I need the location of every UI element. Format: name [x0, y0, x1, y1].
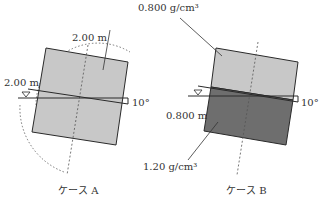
pointer-line-bottom — [188, 122, 218, 160]
case-a-height-label: 2.00 m — [4, 78, 39, 88]
diagram-canvas — [0, 0, 320, 205]
top-density-label: 0.800 g/cm³ — [138, 3, 199, 13]
case-b-figure — [180, 18, 298, 175]
case-b-depth-label: 0.800 m — [166, 111, 207, 121]
pointer-line-b — [180, 18, 222, 56]
case-a-width-label: 2.00 m — [72, 33, 107, 43]
water-level-icon — [194, 90, 202, 95]
case-b-caption: ケース B — [226, 186, 267, 196]
case-a-caption: ケース A — [58, 186, 98, 196]
water-level-icon — [22, 92, 30, 97]
case-b-angle-label: 10° — [301, 98, 319, 108]
case-a-angle-label: 10° — [132, 98, 150, 108]
bottom-density-label: 1.20 g/cm³ — [143, 162, 197, 172]
case-a-figure — [18, 30, 130, 175]
